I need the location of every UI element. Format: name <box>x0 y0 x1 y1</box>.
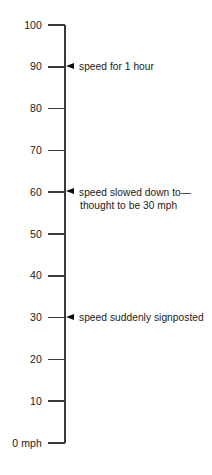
scale-annotation: speed slowed down to—thought to be 30 mp… <box>66 186 191 212</box>
axis-tick-label: 0 mph <box>0 438 42 449</box>
axis-tick-label: 30 <box>0 312 42 323</box>
axis-tick <box>48 400 65 402</box>
axis-tick-label: 50 <box>0 229 42 240</box>
left-triangle-marker-icon <box>66 63 74 69</box>
axis-tick <box>48 150 65 152</box>
annotation-text: speed for 1 hour <box>79 60 154 73</box>
speed-scale-figure: 1009080706050403020100 mph speed for 1 h… <box>0 0 212 475</box>
annotation-text: speed suddenly signposted <box>79 311 204 324</box>
annotation-line-1: speed slowed down to— <box>79 187 191 198</box>
annotation-text: speed slowed down to—thought to be 30 mp… <box>79 186 191 212</box>
scale-annotation: speed suddenly signposted <box>66 311 204 324</box>
axis-tick-label: 100 <box>0 20 42 31</box>
annotation-line-2: thought to be 30 mph <box>79 199 191 212</box>
axis-tick <box>48 191 65 193</box>
axis-tick <box>48 233 65 235</box>
axis-tick <box>48 24 65 26</box>
axis-tick-label: 20 <box>0 354 42 365</box>
axis-tick <box>48 275 65 277</box>
left-triangle-marker-icon <box>66 188 74 194</box>
annotation-line-1: speed for 1 hour <box>79 61 154 72</box>
axis-tick-label: 40 <box>0 270 42 281</box>
axis-tick <box>48 359 65 361</box>
axis-tick <box>48 442 65 444</box>
scale-annotation: speed for 1 hour <box>66 60 154 73</box>
axis-tick-label: 70 <box>0 145 42 156</box>
axis-tick-label: 10 <box>0 396 42 407</box>
axis-tick-label: 80 <box>0 103 42 114</box>
axis-tick <box>48 317 65 319</box>
axis-tick <box>48 108 65 110</box>
axis-tick <box>48 66 65 68</box>
axis-tick-label: 60 <box>0 187 42 198</box>
annotation-line-1: speed suddenly signposted <box>79 312 204 323</box>
left-triangle-marker-icon <box>66 314 74 320</box>
axis-tick-label: 90 <box>0 61 42 72</box>
